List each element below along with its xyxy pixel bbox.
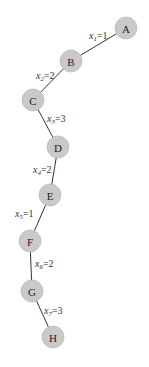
edge-label: x3=3 xyxy=(46,113,66,126)
node-g: G xyxy=(21,280,43,302)
edge-labels-group: x1=1x2=2x3=3x4=2x5=1x6=2x7=3 xyxy=(14,30,108,318)
node-f: F xyxy=(19,230,41,252)
node-a: A xyxy=(115,17,137,39)
node-e: E xyxy=(39,184,61,206)
node-label: D xyxy=(54,142,62,154)
node-h: H xyxy=(42,326,64,348)
node-d: D xyxy=(47,136,69,158)
edge-label: x6=2 xyxy=(34,258,54,271)
edge-label: x7=3 xyxy=(43,305,63,318)
edge-label: x5=1 xyxy=(14,208,34,221)
node-c: C xyxy=(22,89,44,111)
node-label: H xyxy=(49,332,57,344)
node-label: C xyxy=(29,95,36,107)
nodes-group: ABCDEFGH xyxy=(19,17,137,348)
node-label: F xyxy=(27,236,33,248)
node-b: B xyxy=(60,50,82,72)
node-label: B xyxy=(67,56,74,68)
edge-label: x4=2 xyxy=(32,164,52,177)
node-label: E xyxy=(47,190,54,202)
node-label: A xyxy=(122,23,130,35)
node-label: G xyxy=(28,286,36,298)
path-diagram: x1=1x2=2x3=3x4=2x5=1x6=2x7=3 ABCDEFGH xyxy=(0,0,149,367)
